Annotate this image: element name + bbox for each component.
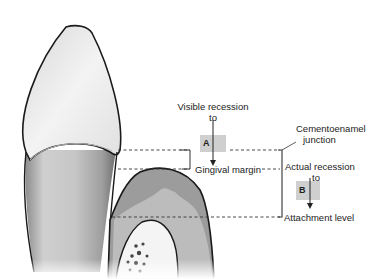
box-b-label: B [299,185,306,195]
visible-recession-bracket [180,150,190,169]
cej-label-line2: junction [303,134,336,145]
tooth-crown [23,26,121,160]
gingival-margin-label: Gingival margin [195,164,261,175]
visible-recession-label: Visible recession [172,101,254,112]
actual-recession-label: Actual recession [285,161,355,172]
cej-label: Cementoenamel [296,123,366,134]
visible-recession-to: to [172,112,254,123]
attachment-level-label: Attachment level [284,212,354,223]
actual-recession-to: to [312,172,320,183]
diagram-canvas: Visible recession to A Gingival margin C… [0,0,371,279]
box-a-label: A [203,138,210,148]
